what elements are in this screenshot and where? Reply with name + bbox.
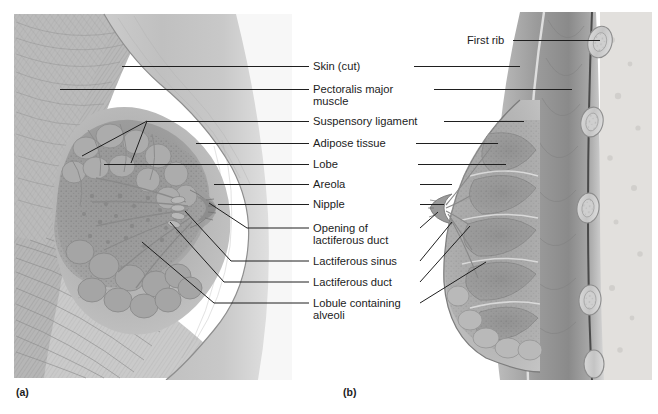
label-pectoralis-major: Pectoralis major bbox=[313, 83, 393, 95]
label-pectoralis-major-line2: muscle bbox=[313, 95, 348, 107]
label-opening-of-lactiferous-duct-line2: lactiferous duct bbox=[313, 234, 389, 246]
label-suspensory-ligament: Suspensory ligament bbox=[313, 115, 418, 127]
label-lactiferous-sinus: Lactiferous sinus bbox=[313, 255, 397, 267]
figure-canvas: Skin (cut) Pectoralis major muscle Suspe… bbox=[0, 0, 658, 414]
label-lobule-containing-alveoli-line2: alveoli bbox=[313, 309, 345, 321]
rib-cross-section-b bbox=[584, 350, 604, 378]
label-skin-cut: Skin (cut) bbox=[313, 60, 361, 72]
deep-tissue-background-b bbox=[600, 12, 652, 380]
label-opening-of-lactiferous-duct: Opening of bbox=[313, 222, 369, 234]
label-nipple: Nipple bbox=[313, 198, 345, 210]
label-lobule-containing-alveoli: Lobule containing bbox=[313, 297, 401, 309]
panel-a-illustration bbox=[14, 14, 292, 380]
panel-label-a: (a) bbox=[16, 386, 29, 398]
anatomy-figure: Skin (cut) Pectoralis major muscle Suspe… bbox=[0, 0, 658, 414]
panel-label-b: (b) bbox=[343, 386, 356, 398]
label-lobe: Lobe bbox=[313, 158, 338, 170]
label-adipose-tissue: Adipose tissue bbox=[313, 137, 386, 149]
label-areola: Areola bbox=[313, 178, 346, 190]
label-first-rib: First rib bbox=[467, 34, 504, 46]
label-lactiferous-duct: Lactiferous duct bbox=[313, 276, 393, 288]
